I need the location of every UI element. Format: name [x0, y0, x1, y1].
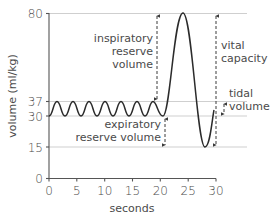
vc-label: vital capacity [221, 39, 268, 65]
y-tick-37: 37 [28, 95, 43, 109]
x-tick-labels: 0 5 10 15 20 25 30 [45, 184, 223, 198]
svg-text:vital: vital [221, 39, 245, 52]
x-axis-title: seconds [110, 202, 155, 215]
svg-text:volume: volume [229, 100, 270, 113]
y-tick-80: 80 [28, 7, 43, 21]
x-tick-5: 5 [73, 184, 81, 198]
svg-text:expiratory: expiratory [105, 118, 162, 131]
x-tick-20: 20 [153, 184, 168, 198]
x-tick-25: 25 [181, 184, 196, 198]
tv-label: tidal volume [229, 87, 270, 113]
y-tick-labels: 80 37 30 15 0 [28, 7, 43, 186]
y-tick-30: 30 [28, 110, 43, 124]
svg-text:capacity: capacity [221, 52, 268, 65]
y-tick-0: 0 [35, 172, 43, 186]
svg-text:tidal: tidal [229, 87, 253, 100]
x-tick-0: 0 [45, 184, 53, 198]
svg-text:inspiratory: inspiratory [94, 32, 154, 45]
svg-text:reserve volume: reserve volume [75, 131, 161, 144]
x-tick-30: 30 [208, 184, 223, 198]
erv-label: expiratory reserve volume [75, 118, 161, 144]
x-tick-15: 15 [125, 184, 140, 198]
svg-text:reserve: reserve [112, 45, 154, 58]
y-axis-title: volume (ml/kg) [6, 54, 19, 138]
irv-label: inspiratory reserve volume [94, 32, 154, 71]
lung-volume-chart: 80 37 30 15 0 0 5 10 15 20 25 30 seconds… [0, 0, 278, 216]
svg-text:volume: volume [112, 58, 153, 71]
y-tick-15: 15 [28, 141, 43, 155]
x-tick-10: 10 [97, 184, 112, 198]
annotation-arrows [157, 16, 224, 145]
